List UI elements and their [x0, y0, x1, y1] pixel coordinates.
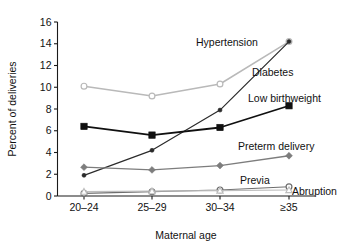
- y-tick-label: 4: [46, 146, 52, 158]
- data-point-marker: [217, 81, 223, 87]
- series-label-previa: Previa: [240, 174, 270, 186]
- series-group: [81, 39, 293, 197]
- data-point-marker: [81, 123, 87, 129]
- data-point-marker: [81, 164, 88, 171]
- y-tick-label: 14: [40, 37, 52, 49]
- series-line: [84, 106, 289, 135]
- data-point-marker: [286, 152, 293, 159]
- series-label-diabetes: Diabetes: [252, 66, 293, 78]
- y-tick-label: 6: [46, 124, 52, 136]
- data-point-marker: [218, 108, 222, 112]
- x-tick-label: 30–34: [205, 201, 234, 213]
- series-preterm-delivery: [81, 152, 293, 173]
- data-point-marker: [217, 124, 223, 130]
- x-tick-label: ≥35: [280, 201, 298, 213]
- data-point-marker: [149, 167, 156, 174]
- series-label-hypertension: Hypertension: [196, 36, 258, 48]
- data-point-marker: [149, 132, 155, 138]
- y-axis-ticks: 0246810121416: [40, 16, 58, 202]
- chart-container: 0246810121416 20–2425–2930–34≥35 Hyperte…: [0, 0, 346, 244]
- data-point-marker: [81, 83, 87, 89]
- y-tick-label: 16: [40, 16, 52, 28]
- series-low-birthweight: [81, 103, 292, 139]
- data-point-marker: [217, 162, 224, 169]
- x-tick-label: 20–24: [69, 201, 98, 213]
- data-point-marker: [82, 173, 86, 177]
- y-axis-title: Percent of deliveries: [6, 61, 18, 156]
- data-point-marker: [149, 93, 155, 99]
- y-tick-label: 8: [46, 103, 52, 115]
- y-tick-label: 12: [40, 59, 52, 71]
- y-tick-label: 2: [46, 168, 52, 180]
- y-tick-label: 10: [40, 81, 52, 93]
- y-tick-label: 0: [46, 190, 52, 202]
- line-chart: 0246810121416 20–2425–2930–34≥35 Hyperte…: [0, 0, 346, 244]
- x-axis-title: Maternal age: [155, 229, 216, 241]
- series-label-preterm-delivery: Preterm delivery: [238, 140, 315, 152]
- series-label-low-birthweight: Low birthweight: [248, 92, 321, 104]
- x-axis-ticks: 20–2425–2930–34≥35: [69, 196, 297, 213]
- data-point-marker: [150, 148, 154, 152]
- series-line: [84, 42, 289, 176]
- series-annotations: HypertensionDiabetesLow birthweightPrete…: [196, 36, 337, 197]
- series-line: [84, 156, 289, 170]
- series-line: [84, 190, 289, 192]
- series-label-abruption: Abruption: [292, 185, 337, 197]
- x-tick-label: 25–29: [137, 201, 166, 213]
- data-point-marker: [287, 40, 291, 44]
